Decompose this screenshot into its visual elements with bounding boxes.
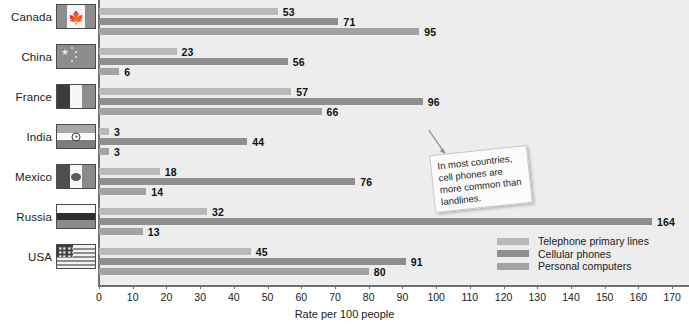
bar-canada-telephone-primary-lines	[99, 8, 278, 15]
legend-item-computers[interactable]: Personal computers	[497, 260, 649, 273]
legend-swatch-computers	[497, 263, 529, 270]
bar-france-personal-computers	[99, 108, 322, 115]
x-tick-80	[369, 285, 370, 289]
bar-value-france-1: 96	[428, 96, 440, 108]
bar-value-russia-1: 164	[657, 216, 675, 228]
category-row-usa: USA ★★★★★★★★★★★★★★★	[0, 244, 98, 269]
category-row-france: France	[0, 84, 98, 109]
category-row-mexico: Mexico	[0, 164, 98, 189]
bar-russia-personal-computers	[99, 228, 143, 235]
bar-russia-cellular-phones	[99, 218, 652, 225]
bar-value-canada-1: 71	[343, 16, 355, 28]
x-tick-label-110: 110	[461, 291, 478, 303]
x-tick-label-130: 130	[529, 291, 547, 303]
callout-annotation: In most countries, cell phones are more …	[420, 128, 530, 210]
bar-value-india-2: 3	[114, 146, 120, 158]
x-tick-140	[571, 285, 572, 289]
bar-value-usa-2: 80	[374, 266, 386, 278]
flag-china-icon: ★	[56, 44, 96, 69]
x-tick-label-160: 160	[630, 291, 648, 303]
bar-canada-personal-computers	[99, 28, 419, 35]
x-tick-120	[504, 285, 505, 289]
category-label-france: France	[0, 91, 56, 103]
legend-item-telephone[interactable]: Telephone primary lines	[497, 235, 649, 248]
category-label-china: China	[0, 51, 56, 63]
legend-label-computers: Personal computers	[538, 260, 631, 272]
bar-usa-cellular-phones	[99, 258, 406, 265]
bar-usa-personal-computers	[99, 268, 369, 275]
x-tick-label-70: 70	[329, 291, 341, 303]
category-row-china: China ★	[0, 44, 98, 69]
flag-india-icon	[56, 124, 96, 149]
bar-china-personal-computers	[99, 68, 119, 75]
bar-chart: Canada 🍁 China ★ France India	[0, 0, 689, 326]
x-tick-50	[268, 285, 269, 289]
flag-usa-icon: ★★★★★★★★★★★★★★★	[56, 244, 96, 269]
bar-china-cellular-phones	[99, 58, 288, 65]
flag-mexico-icon	[56, 164, 96, 189]
bar-mexico-cellular-phones	[99, 178, 355, 185]
category-label-usa: USA	[0, 251, 56, 263]
bar-russia-telephone-primary-lines	[99, 208, 207, 215]
bar-india-telephone-primary-lines	[99, 128, 109, 135]
x-tick-90	[402, 285, 403, 289]
bar-france-cellular-phones	[99, 98, 423, 105]
x-tick-60	[301, 285, 302, 289]
bar-value-canada-0: 53	[283, 6, 295, 18]
x-tick-40	[234, 285, 235, 289]
x-tick-110	[470, 285, 471, 289]
x-tick-label-90: 90	[397, 291, 409, 303]
x-tick-label-0: 0	[96, 291, 102, 303]
x-tick-label-100: 100	[427, 291, 445, 303]
callout-box: In most countries, cell phones are more …	[429, 145, 533, 213]
category-label-russia: Russia	[0, 211, 56, 223]
legend: Telephone primary lines Cellular phones …	[497, 235, 649, 273]
bar-value-russia-2: 13	[148, 226, 160, 238]
legend-swatch-cellular	[497, 250, 529, 257]
x-tick-100	[436, 285, 437, 289]
bar-china-telephone-primary-lines	[99, 48, 177, 55]
bar-value-china-2: 6	[124, 66, 130, 78]
category-row-india: India	[0, 124, 98, 149]
bar-value-france-0: 57	[296, 86, 308, 98]
x-tick-160	[638, 285, 639, 289]
bar-value-mexico-0: 18	[165, 166, 177, 178]
flag-france-icon	[56, 84, 96, 109]
x-tick-label-140: 140	[562, 291, 580, 303]
bar-france-telephone-primary-lines	[99, 88, 291, 95]
x-tick-0	[99, 285, 100, 289]
x-axis-title: Rate per 100 people	[0, 308, 689, 320]
legend-item-cellular[interactable]: Cellular phones	[497, 248, 649, 261]
bar-value-france-2: 66	[327, 106, 339, 118]
x-tick-130	[537, 285, 538, 289]
category-label-india: India	[0, 131, 56, 143]
bar-value-india-1: 44	[252, 136, 264, 148]
bar-value-china-1: 56	[293, 56, 305, 68]
x-tick-label-10: 10	[127, 291, 139, 303]
category-label-mexico: Mexico	[0, 171, 56, 183]
x-tick-label-170: 170	[663, 291, 681, 303]
bar-india-cellular-phones	[99, 138, 247, 145]
x-tick-label-80: 80	[363, 291, 375, 303]
bar-value-usa-1: 91	[411, 256, 423, 268]
bar-mexico-personal-computers	[99, 188, 146, 195]
category-row-russia: Russia	[0, 204, 98, 229]
x-tick-label-60: 60	[295, 291, 307, 303]
category-label-canada: Canada	[0, 11, 56, 23]
x-tick-label-150: 150	[596, 291, 614, 303]
callout-text: In most countries, cell phones are more …	[437, 152, 526, 209]
bar-value-mexico-2: 14	[151, 186, 163, 198]
x-tick-label-20: 20	[161, 291, 173, 303]
x-tick-170	[672, 285, 673, 289]
flag-russia-icon	[56, 204, 96, 229]
x-axis-line	[98, 285, 689, 287]
bar-value-usa-0: 45	[256, 246, 268, 258]
x-tick-30	[200, 285, 201, 289]
bar-value-china-0: 23	[182, 46, 194, 58]
bar-canada-cellular-phones	[99, 18, 338, 25]
bar-value-mexico-1: 76	[360, 176, 372, 188]
x-tick-70	[335, 285, 336, 289]
x-tick-150	[605, 285, 606, 289]
callout-leader-line	[426, 128, 448, 156]
x-tick-10	[133, 285, 134, 289]
